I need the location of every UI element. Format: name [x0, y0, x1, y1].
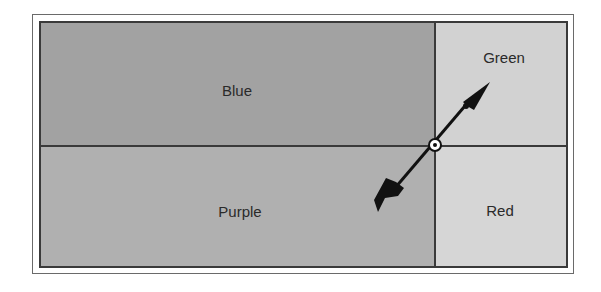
- compass-arrow-icon: [0, 0, 601, 292]
